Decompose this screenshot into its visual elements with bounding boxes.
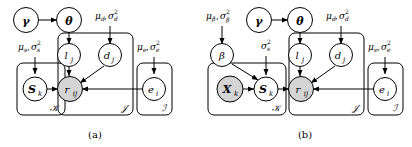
svg-text:,: , [146, 42, 149, 52]
node-gamma-a-label: γ [22, 15, 30, 28]
plate-diagram-svg: γ θ l j d j S k r ij e i μ d , σ d 2 μ s… [0, 0, 412, 147]
figure-root: γ θ l j d j S k r ij e i μ d , σ d 2 μ s… [0, 0, 412, 147]
svg-text:2: 2 [267, 38, 271, 45]
svg-text:,: , [216, 11, 219, 21]
svg-text:s: s [267, 45, 270, 52]
svg-text:,: , [104, 11, 107, 21]
node-Sk-b-sub: k [269, 90, 273, 98]
node-rij-b [289, 77, 314, 102]
svg-text:2: 2 [156, 39, 160, 46]
svg-text:2: 2 [37, 39, 41, 46]
node-ei-b-label: e [379, 84, 385, 95]
node-gamma-b-label: γ [255, 15, 263, 28]
node-lj-b-label: l [295, 50, 298, 61]
hyper-mu-sigma-s-a: μ s , σ s 2 [18, 39, 41, 53]
svg-text:,: , [335, 11, 338, 21]
svg-text:2: 2 [345, 8, 349, 15]
svg-text:β: β [225, 16, 230, 24]
node-lj-b [289, 44, 312, 67]
node-beta-b-label: β [218, 50, 225, 61]
node-Sk-a-sub: k [38, 90, 42, 98]
svg-text:e: e [387, 46, 391, 53]
hyper-sigma-s-b: σ s 2 [261, 38, 271, 52]
svg-text:d: d [114, 15, 118, 22]
node-theta-a-label: θ [65, 15, 73, 28]
svg-text:e: e [156, 46, 160, 53]
hyper-mu-sigma-e-b: μ e , σ e 2 [368, 39, 391, 53]
svg-text:2: 2 [226, 8, 230, 15]
svg-text:,: , [377, 42, 380, 52]
node-ei-b-sub: i [387, 90, 389, 98]
svg-text:,: , [27, 42, 30, 52]
hyper-mu-sigma-d-a: μ d , σ d 2 [95, 8, 118, 22]
hyper-mu-sigma-d-b: μ d , σ d 2 [326, 8, 349, 22]
node-dj-a-label: d [104, 50, 110, 61]
svg-text:d: d [345, 15, 349, 22]
node-Sk-a-label: S [28, 83, 36, 96]
node-dj-b-label: d [335, 50, 341, 61]
node-ei-a [143, 78, 166, 101]
node-Sk-b-label: S [259, 83, 267, 96]
node-lj-a-label: l [64, 50, 67, 61]
svg-text:s: s [37, 46, 40, 53]
node-rij-a [58, 77, 83, 102]
node-ei-a-sub: i [156, 90, 158, 98]
hyper-mu-sigma-e-a: μ e , σ e 2 [137, 39, 160, 53]
panel-b-caption: (b) [298, 129, 312, 140]
svg-text:2: 2 [387, 39, 391, 46]
node-Xk-b-label: X [222, 83, 232, 96]
node-Xk-b-sub: k [234, 90, 238, 98]
svg-text:2: 2 [114, 8, 118, 15]
node-ei-a-label: e [148, 84, 154, 95]
node-ei-b [374, 78, 397, 101]
panel-a-caption: (a) [88, 129, 102, 140]
node-lj-a [58, 44, 81, 67]
node-theta-b-label: θ [296, 15, 304, 28]
